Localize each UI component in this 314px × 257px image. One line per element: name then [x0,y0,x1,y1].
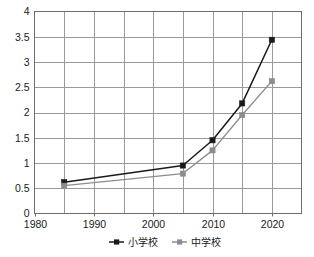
line-chart: 00.511.522.533.5419801990200020102020小学校… [0,0,314,257]
chart-container: 00.511.522.533.5419801990200020102020小学校… [0,0,314,257]
x-axis-tick-label: 2000 [142,218,166,230]
grid-lines [35,12,302,214]
data-point-marker [269,37,274,42]
legend-marker-swatch [114,239,119,244]
x-axis-tick-label: 2020 [261,218,285,230]
x-axis-tick-label: 1990 [83,218,107,230]
series-line [64,81,272,186]
y-axis-tick-label: 2 [24,106,30,118]
y-axis-tick-label: 0.5 [15,182,30,194]
x-axis-tick-label: 2010 [202,218,226,230]
y-axis-tick-label: 1 [24,157,30,169]
legend-item-2[interactable]: 中学校 [172,236,221,248]
data-point-marker [62,183,67,188]
data-point-marker [240,112,245,117]
x-axis-labels: 19801990200020102020 [24,214,285,230]
y-axis-tick-label: 3.5 [15,31,30,43]
x-axis-tick-label: 1980 [24,218,48,230]
data-point-marker [180,171,185,176]
y-axis-tick-label: 3 [24,56,30,68]
chart-legend: 小学校中学校 [109,236,221,248]
data-point-marker [210,138,215,143]
legend-label: 小学校 [128,236,158,248]
series-line [64,40,272,182]
y-axis-tick-label: 1.5 [15,132,30,144]
plot-frame [35,12,302,214]
data-point-marker [210,148,215,153]
data-point-marker [240,101,245,106]
legend-item-1[interactable]: 小学校 [109,236,158,248]
data-point-marker [180,163,185,168]
y-axis-tick-label: 2.5 [15,81,30,93]
y-axis-tick-label: 4 [24,5,30,17]
y-axis-labels: 00.511.522.533.54 [15,5,30,219]
legend-label: 中学校 [191,236,221,248]
legend-marker-swatch [177,239,182,244]
data-point-marker [269,79,274,84]
